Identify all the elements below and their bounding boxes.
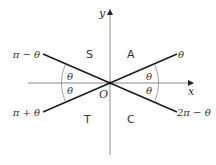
ray-label-third: π + θ (12, 107, 40, 118)
ray-fourth-quadrant (110, 83, 177, 112)
ray-second-quadrant (43, 54, 110, 83)
quadrant-label-third: T (83, 113, 91, 126)
angle-label-right-upper: θ (146, 71, 152, 82)
origin-label: O (99, 88, 108, 101)
y-axis-label: y (98, 7, 106, 20)
quadrant-label-first: A (127, 48, 135, 61)
ray-label-second: π − θ (12, 49, 40, 60)
angle-label-left-lower: θ (67, 85, 73, 96)
origin-point (108, 81, 111, 84)
ray-first-quadrant (110, 54, 177, 83)
quadrant-diagram: y x O S A T C π − θ θ π + θ 2π − θ θ θ θ… (0, 0, 216, 165)
angle-label-left-upper: θ (67, 71, 73, 82)
ray-label-fourth: 2π − θ (176, 107, 211, 118)
quadrant-label-fourth: C (127, 113, 135, 126)
quadrant-label-second: S (86, 48, 93, 61)
ray-label-first: θ (178, 49, 184, 60)
x-axis-label: x (188, 85, 195, 98)
angle-label-right-lower: θ (146, 85, 152, 96)
